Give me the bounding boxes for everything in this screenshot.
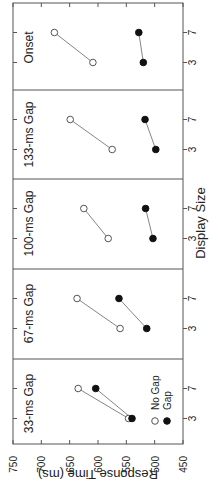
- filled-circle-icon: [142, 116, 149, 123]
- panel-title: 33-ms Gap: [22, 373, 36, 433]
- legend-no-gap-label: No Gap: [150, 375, 161, 410]
- series-line-no-gap: [78, 389, 128, 419]
- panel-title: 133-ms Gap: [22, 101, 36, 167]
- panel-100-ms-gap: 100-ms Gap: [22, 190, 156, 256]
- panel-67-ms-gap: 67-ms Gap: [22, 283, 150, 343]
- legend-filled-circle-icon: [164, 418, 171, 425]
- display-size-label: 7: [187, 385, 198, 391]
- legend: No GapGap: [150, 375, 173, 424]
- y-axis-label: Response Time (ms): [38, 467, 158, 482]
- series-line-gap: [145, 120, 156, 150]
- filled-circle-icon: [116, 295, 123, 302]
- series-line-no-gap: [70, 120, 112, 150]
- display-size-label: 7: [187, 116, 198, 122]
- display-size-label: 7: [187, 29, 198, 35]
- filled-circle-icon: [153, 146, 160, 153]
- open-circle-icon: [51, 29, 58, 36]
- display-size-label: 3: [187, 59, 198, 65]
- x-axis-label: Display Size: [193, 187, 208, 259]
- series-line-no-gap: [84, 209, 108, 239]
- panel-onset: Onset: [22, 29, 147, 66]
- display-size-label: 7: [187, 295, 198, 301]
- series-line-gap: [139, 33, 144, 63]
- open-circle-icon: [90, 59, 97, 66]
- filled-circle-icon: [92, 385, 99, 392]
- series-line-gap: [96, 389, 132, 419]
- panel-title: 100-ms Gap: [22, 190, 36, 256]
- open-circle-icon: [75, 385, 82, 392]
- open-circle-icon: [109, 146, 116, 153]
- display-size-label: 3: [187, 325, 198, 331]
- filled-circle-icon: [150, 235, 157, 242]
- panel-33-ms-gap: 33-ms Gap: [22, 373, 135, 433]
- legend-open-circle-icon: [152, 418, 159, 425]
- chart-canvas: 33-ms Gap67-ms Gap100-ms Gap133-ms GapOn…: [0, 0, 218, 485]
- legend-gap-label: Gap: [162, 391, 173, 410]
- filled-circle-icon: [136, 29, 143, 36]
- value-tick-label: 450: [178, 456, 189, 473]
- filled-circle-icon: [143, 325, 150, 332]
- display-size-axis: 3737373737: [13, 29, 198, 421]
- open-circle-icon: [81, 205, 88, 212]
- open-circle-icon: [105, 235, 112, 242]
- open-circle-icon: [74, 295, 81, 302]
- series-line-gap: [119, 299, 147, 329]
- open-circle-icon: [117, 325, 124, 332]
- series-line-gap: [146, 209, 153, 239]
- panel-133-ms-gap: 133-ms Gap: [22, 101, 159, 167]
- series-line-no-gap: [77, 299, 120, 329]
- filled-circle-icon: [140, 59, 147, 66]
- open-circle-icon: [67, 116, 74, 123]
- filled-circle-icon: [142, 205, 149, 212]
- value-tick-label: 750: [8, 456, 19, 473]
- panel-title: 67-ms Gap: [22, 283, 36, 343]
- series-line-no-gap: [54, 33, 93, 63]
- display-size-label: 3: [187, 146, 198, 152]
- filled-circle-icon: [129, 415, 136, 422]
- display-size-label: 3: [187, 415, 198, 421]
- response-time-chart: 33-ms Gap67-ms Gap100-ms Gap133-ms GapOn…: [0, 0, 218, 485]
- panel-title: Onset: [22, 31, 36, 64]
